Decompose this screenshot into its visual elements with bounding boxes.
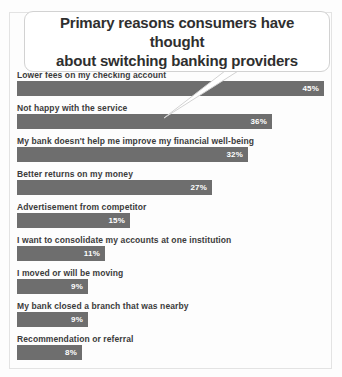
bar-track: 11% <box>17 246 329 261</box>
bar-category-label: Advertisement from competitor <box>17 202 329 213</box>
bar-row: My bank closed a branch that was nearby … <box>17 301 329 327</box>
bar-row: I moved or will be moving 9% <box>17 268 329 294</box>
title-line-1: Primary reasons consumers have thought <box>60 14 294 50</box>
bar-category-label: Recommendation or referral <box>17 334 329 345</box>
title-callout: Primary reasons consumers have thought a… <box>24 11 330 72</box>
bar-value-label: 9% <box>71 283 88 291</box>
page-title: Primary reasons consumers have thought a… <box>25 13 329 71</box>
bar-category-label: I moved or will be moving <box>17 268 329 279</box>
bar-value-label: 36% <box>250 118 272 126</box>
callout-tail-icon <box>160 64 246 120</box>
bar: 11% <box>17 246 105 261</box>
bar-value-label: 15% <box>108 217 130 225</box>
infographic-bar-chart: Primary reasons consumers have thought a… <box>0 0 342 377</box>
bar-value-label: 32% <box>226 151 248 159</box>
bar-track: 9% <box>17 279 329 294</box>
bar-track: 9% <box>17 312 329 327</box>
bar-track: 27% <box>17 180 329 195</box>
bar: 27% <box>17 180 212 195</box>
bar: 9% <box>17 279 88 294</box>
bar-category-label: My bank closed a branch that was nearby <box>17 301 329 312</box>
bar: 8% <box>17 345 82 360</box>
bar-row: Advertisement from competitor 15% <box>17 202 329 228</box>
bar: 15% <box>17 213 130 228</box>
bar-row: My bank doesn't help me improve my finan… <box>17 136 329 162</box>
bar-track: 32% <box>17 147 329 162</box>
bar-track: 15% <box>17 213 329 228</box>
bar: 32% <box>17 147 248 162</box>
bar-category-label: My bank doesn't help me improve my finan… <box>17 136 329 147</box>
bar-track: 8% <box>17 345 329 360</box>
bar-category-label: Better returns on my money <box>17 169 329 180</box>
title-line-2: about switching banking providers <box>56 52 298 69</box>
bar-value-label: 45% <box>302 85 324 93</box>
bar-row: Better returns on my money 27% <box>17 169 329 195</box>
bar: 9% <box>17 312 88 327</box>
bar-value-label: 8% <box>65 349 82 357</box>
bar-category-label: I want to consolidate my accounts at one… <box>17 235 329 246</box>
bar-row: I want to consolidate my accounts at one… <box>17 235 329 261</box>
bar-row: Recommendation or referral 8% <box>17 334 329 360</box>
bar-value-label: 11% <box>84 250 105 258</box>
bar-value-label: 9% <box>71 316 88 324</box>
bar-value-label: 27% <box>190 184 212 192</box>
